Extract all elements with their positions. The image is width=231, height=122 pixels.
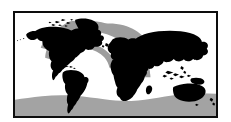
map-frame xyxy=(13,11,218,118)
world-map xyxy=(15,13,216,116)
figure-root: World distribution map xyxy=(0,0,231,122)
